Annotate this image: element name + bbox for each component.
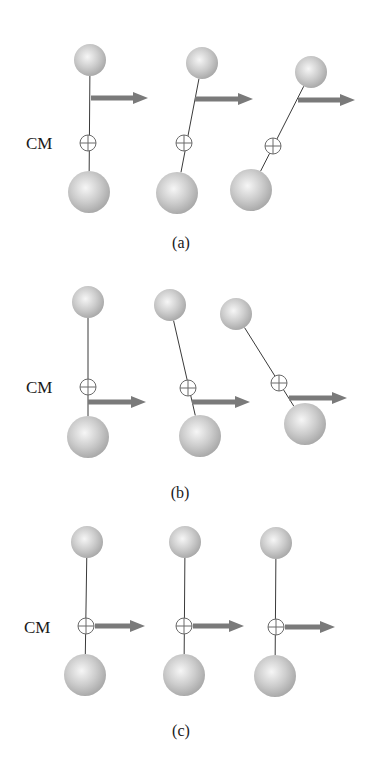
rod bbox=[181, 79, 199, 173]
dumbbell-frame-3 bbox=[230, 56, 355, 211]
small-mass-sphere bbox=[74, 44, 106, 76]
rod bbox=[261, 86, 304, 171]
panel-b: CM(b) bbox=[26, 286, 347, 502]
cm-marker-icon bbox=[176, 135, 192, 151]
small-mass-sphere bbox=[169, 526, 201, 558]
rod bbox=[85, 558, 86, 654]
force-arrow-icon bbox=[88, 396, 146, 408]
dumbbell-frame-3 bbox=[254, 527, 335, 697]
rod bbox=[89, 76, 90, 171]
force-arrow-icon bbox=[298, 94, 355, 106]
small-mass-sphere bbox=[260, 527, 292, 559]
large-mass-sphere bbox=[284, 403, 326, 445]
large-mass-sphere bbox=[67, 416, 109, 458]
cm-marker-icon bbox=[80, 379, 96, 395]
large-mass-sphere bbox=[179, 415, 221, 457]
rod bbox=[245, 328, 294, 407]
rod bbox=[275, 559, 276, 655]
large-mass-sphere bbox=[156, 172, 198, 214]
cm-marker-icon bbox=[176, 618, 192, 634]
cm-marker-icon bbox=[180, 380, 196, 396]
cm-marker-icon bbox=[271, 375, 287, 391]
force-arrow-icon bbox=[195, 93, 253, 105]
small-mass-sphere bbox=[220, 298, 252, 330]
cm-label: CM bbox=[24, 618, 50, 637]
dumbbell-frame-1 bbox=[68, 44, 148, 213]
force-arrow-icon bbox=[192, 396, 250, 408]
small-mass-sphere bbox=[72, 286, 104, 318]
panel-caption: (c) bbox=[172, 722, 190, 740]
dumbbell-frame-3 bbox=[220, 298, 347, 445]
large-mass-sphere bbox=[64, 654, 106, 696]
panel-c: CM(c) bbox=[24, 526, 335, 740]
panel-caption: (b) bbox=[171, 484, 190, 502]
cm-label: CM bbox=[26, 378, 52, 397]
dumbbell-cm-diagram: CM(a)CM(b)CM(c) bbox=[0, 0, 369, 758]
panel-a: CM(a) bbox=[26, 44, 355, 252]
cm-marker-icon bbox=[80, 135, 96, 151]
small-mass-sphere bbox=[71, 526, 103, 558]
large-mass-sphere bbox=[163, 654, 205, 696]
dumbbell-frame-1 bbox=[67, 286, 146, 458]
dumbbell-frame-1 bbox=[64, 526, 145, 696]
large-mass-sphere bbox=[254, 655, 296, 697]
small-mass-sphere bbox=[295, 56, 327, 88]
small-mass-sphere bbox=[186, 47, 218, 79]
cm-marker-icon bbox=[78, 618, 94, 634]
small-mass-sphere bbox=[154, 289, 186, 321]
force-arrow-icon bbox=[193, 620, 244, 632]
cm-label: CM bbox=[26, 134, 52, 153]
large-mass-sphere bbox=[230, 169, 272, 211]
force-arrow-icon bbox=[285, 621, 335, 633]
rod bbox=[184, 558, 185, 654]
cm-marker-icon bbox=[265, 138, 281, 154]
dumbbell-frame-2 bbox=[163, 526, 244, 696]
large-mass-sphere bbox=[68, 171, 110, 213]
cm-marker-icon bbox=[268, 619, 284, 635]
panel-caption: (a) bbox=[172, 234, 190, 252]
force-arrow-icon bbox=[95, 620, 145, 632]
force-arrow-icon bbox=[289, 392, 347, 404]
force-arrow-icon bbox=[91, 92, 148, 104]
